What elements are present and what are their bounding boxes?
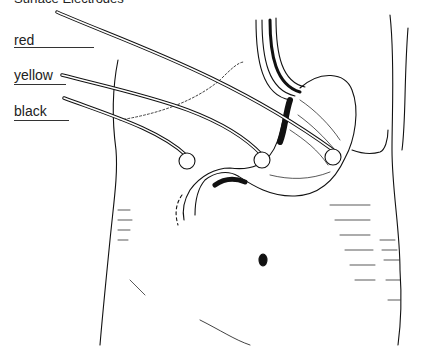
black-wire [64,98,187,156]
torso-left-contour [100,60,118,345]
electrode-black [179,153,195,169]
navel [259,254,267,266]
torso-right-contour [390,15,401,345]
electrode-yellow [254,152,270,168]
electrode-red [325,149,341,165]
abdomen-illustration [0,0,425,358]
red-wire [57,12,333,150]
